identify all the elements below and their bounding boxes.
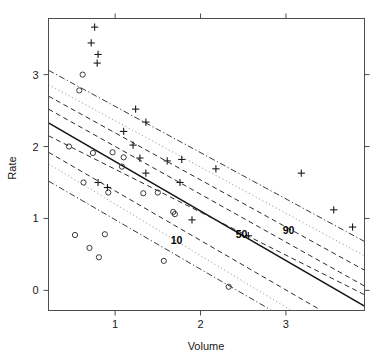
x-tick-label: 2: [197, 318, 203, 330]
y-tick-label: 0: [32, 284, 38, 296]
y-tick-label: 3: [32, 69, 38, 81]
y-tick-label: 1: [32, 212, 38, 224]
scatter-plot-figure: 1230123 105090 Volume Rate: [0, 0, 385, 361]
y-axis-title: Rate: [6, 156, 18, 179]
x-tick-label: 1: [112, 318, 118, 330]
band-label-10: 10: [171, 234, 183, 246]
y-tick-label: 2: [32, 141, 38, 153]
band-label-50: 50: [236, 228, 248, 240]
figure-background: [0, 0, 385, 361]
band-label-90: 90: [283, 224, 295, 236]
x-tick-label: 3: [283, 318, 289, 330]
x-axis-title: Volume: [188, 340, 225, 352]
plot-canvas: 1230123 105090 Volume Rate: [0, 0, 385, 361]
